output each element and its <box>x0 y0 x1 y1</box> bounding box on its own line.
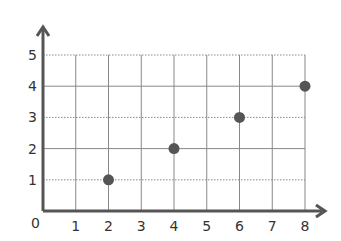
x-tick-label: 2 <box>104 218 113 234</box>
origin-label: 0 <box>31 215 40 231</box>
x-tick-label: 5 <box>202 218 211 234</box>
data-point <box>234 112 245 123</box>
y-tick-label: 4 <box>28 78 37 94</box>
data-point <box>300 81 311 92</box>
x-tick-label: 7 <box>268 218 277 234</box>
y-tick-label: 2 <box>28 141 37 157</box>
y-tick-label: 5 <box>28 47 37 63</box>
x-tick-label: 8 <box>301 218 310 234</box>
tick-labels: 1234567812345 <box>28 47 309 234</box>
x-tick-label: 4 <box>170 218 179 234</box>
x-tick-label: 3 <box>137 218 146 234</box>
x-tick-label: 6 <box>235 218 244 234</box>
x-tick-label: 1 <box>71 218 80 234</box>
scatter-chart: 1234567812345 0 <box>0 0 341 241</box>
data-point <box>169 143 180 154</box>
y-tick-label: 1 <box>28 172 37 188</box>
y-tick-label: 3 <box>28 109 37 125</box>
data-point <box>103 174 114 185</box>
grid <box>43 55 305 211</box>
